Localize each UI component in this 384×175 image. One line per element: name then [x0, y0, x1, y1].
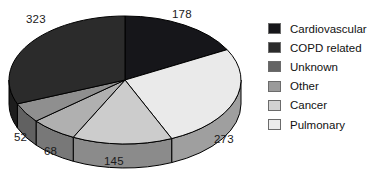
pie-value-label: 178	[172, 8, 192, 20]
pie-chart-graphic	[0, 0, 260, 175]
legend-item-label: Cardiovascular	[290, 23, 367, 35]
legend-swatch-icon	[268, 119, 281, 130]
pie-value-label: 68	[44, 145, 57, 157]
legend-item-label: Other	[290, 80, 319, 92]
legend-item-cardiovascular[interactable]: Cardiovascular	[268, 19, 384, 38]
legend-item-label: Cancer	[290, 99, 327, 111]
legend-item-pulmonary[interactable]: Pulmonary	[268, 115, 384, 134]
legend-item-label: Pulmonary	[290, 119, 345, 131]
legend-item-other[interactable]: Other	[268, 77, 384, 96]
chart-legend: CardiovascularCOPD relatedUnknownOtherCa…	[268, 19, 384, 134]
legend-item-unknown[interactable]: Unknown	[268, 57, 384, 76]
pie-value-label: 323	[26, 13, 46, 25]
legend-item-label: COPD related	[290, 42, 362, 54]
legend-item-cancer[interactable]: Cancer	[268, 96, 384, 115]
pie-chart-figure: 1782731456852323 CardiovascularCOPD rela…	[0, 0, 384, 175]
legend-item-copd-related[interactable]: COPD related	[268, 38, 384, 57]
pie-top-faces	[9, 16, 241, 144]
pie-value-label: 145	[104, 155, 124, 167]
legend-swatch-icon	[268, 100, 281, 111]
legend-swatch-icon	[268, 42, 281, 53]
legend-item-label: Unknown	[290, 61, 338, 73]
legend-swatch-icon	[268, 81, 281, 92]
legend-swatch-icon	[268, 61, 281, 72]
pie-value-label: 273	[214, 133, 234, 145]
pie-value-label: 52	[14, 131, 27, 143]
legend-swatch-icon	[268, 23, 281, 34]
